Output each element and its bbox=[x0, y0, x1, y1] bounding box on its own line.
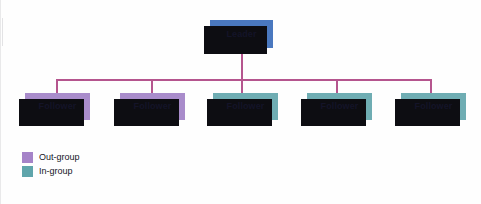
node-follower-3[interactable]: Follower bbox=[213, 93, 278, 120]
out-group-swatch bbox=[22, 152, 33, 163]
legend-item-in-group: In-group bbox=[22, 165, 80, 178]
legend: Out-group In-group bbox=[22, 151, 80, 179]
node-follower-1[interactable]: Follower bbox=[25, 93, 90, 120]
legend-item-in-group-label: In-group bbox=[39, 166, 73, 177]
page-edge-artifact-secondary bbox=[2, 18, 3, 46]
connector-horizontal-bus bbox=[56, 79, 431, 81]
node-follower-2-label: Follower bbox=[134, 102, 172, 111]
node-follower-5-label: Follower bbox=[415, 102, 453, 111]
legend-item-out-group: Out-group bbox=[22, 151, 80, 164]
connector-drop-follower-1 bbox=[56, 79, 58, 94]
node-follower-2[interactable]: Follower bbox=[120, 93, 185, 120]
legend-item-out-group-label: Out-group bbox=[39, 152, 80, 163]
in-group-swatch bbox=[22, 166, 33, 177]
connector-drop-follower-2 bbox=[151, 79, 153, 94]
node-follower-3-label: Follower bbox=[227, 102, 265, 111]
lmx-diagram: Leader Follower Follower Follower Follow… bbox=[0, 0, 481, 204]
node-leader[interactable]: Leader bbox=[210, 20, 273, 48]
node-follower-1-label: Follower bbox=[39, 102, 77, 111]
connector-drop-follower-3 bbox=[241, 79, 243, 94]
connector-drop-follower-4 bbox=[336, 79, 338, 94]
node-follower-4-label: Follower bbox=[321, 102, 359, 111]
connector-drop-follower-5 bbox=[430, 79, 432, 94]
page-edge-artifact bbox=[0, 0, 1, 204]
node-follower-5[interactable]: Follower bbox=[401, 93, 466, 120]
node-leader-label: Leader bbox=[226, 30, 256, 39]
node-follower-4[interactable]: Follower bbox=[307, 93, 372, 120]
